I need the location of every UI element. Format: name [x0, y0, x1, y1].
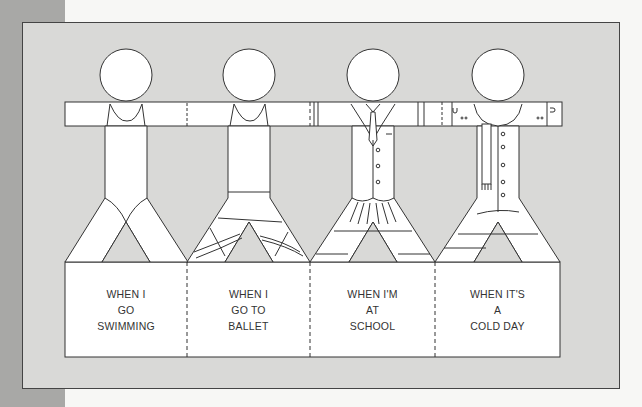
figure-cold-day: [435, 49, 560, 262]
caption-line: BALLET: [228, 318, 268, 334]
caption-swimming: WHEN I GO SWIMMING: [65, 262, 187, 357]
figure-ballet: [187, 49, 310, 262]
caption-line: WHEN I: [229, 286, 268, 302]
caption-ballet: WHEN I GO TO BALLET: [187, 262, 310, 357]
caption-line: WHEN IT'S: [470, 286, 525, 302]
caption-line: SCHOOL: [350, 318, 396, 334]
caption-line: GO: [118, 302, 135, 318]
caption-cold-day: WHEN IT'S A COLD DAY: [435, 262, 560, 357]
caption-line: GO TO: [231, 302, 265, 318]
caption-line: COLD DAY: [470, 318, 525, 334]
caption-line: WHEN I: [106, 286, 145, 302]
caption-line: AT: [366, 302, 379, 318]
figure-swimming: [65, 49, 188, 262]
caption-line: WHEN I'M: [347, 286, 397, 302]
caption-line: A: [494, 302, 501, 318]
figure-school: [310, 49, 435, 262]
caption-school: WHEN I'M AT SCHOOL: [310, 262, 435, 357]
caption-line: SWIMMING: [97, 318, 155, 334]
